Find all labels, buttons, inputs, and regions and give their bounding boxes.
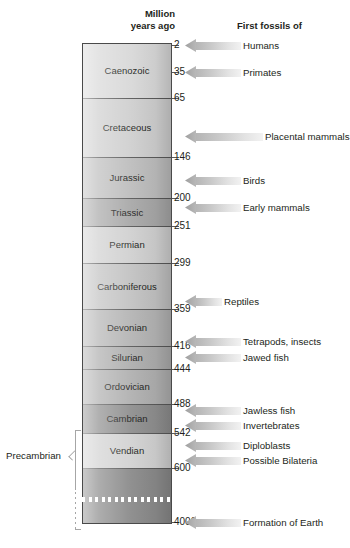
arrow-shaft xyxy=(195,338,241,346)
arrow-head xyxy=(185,516,196,529)
precambrian-bracket-dotted xyxy=(75,492,76,530)
period-band-caenozoic: Caenozoic xyxy=(83,43,171,98)
period-label: Cretaceous xyxy=(103,122,152,133)
tick-label: 65 xyxy=(174,92,185,103)
arrow-shaft xyxy=(195,204,241,212)
period-band-deep-precambrian xyxy=(83,468,171,524)
tick-label: 2 xyxy=(174,39,180,50)
fossil-event-label: Placental mammals xyxy=(265,131,350,142)
period-boundary-rule xyxy=(83,346,171,347)
left-arrow-icon xyxy=(185,454,241,467)
arrow-shaft xyxy=(195,407,241,415)
period-band-cretaceous: Cretaceous xyxy=(83,98,171,157)
left-arrow-icon xyxy=(185,66,241,79)
period-boundary-rule xyxy=(83,309,171,310)
fossil-event: Diploblasts xyxy=(185,438,290,453)
period-band-carboniferous: Carboniferous xyxy=(83,263,171,309)
period-band-cambrian: Cambrian xyxy=(83,404,171,433)
fossil-event: Reptiles xyxy=(185,294,259,309)
period-band-jurassic: Jurassic xyxy=(83,157,171,198)
arrow-head xyxy=(185,419,196,432)
period-band-ordovician: Ordovician xyxy=(83,369,171,404)
precambrian-bracket-tip xyxy=(68,450,78,460)
left-arrow-icon xyxy=(185,335,241,348)
fossil-event: Humans xyxy=(185,38,279,53)
period-label: Permian xyxy=(109,239,144,250)
fossil-event-label: Primates xyxy=(243,67,281,78)
fossils-header: First fossils of xyxy=(237,20,337,32)
period-boundary-rule xyxy=(83,157,171,158)
fossil-event: Possible Bilateria xyxy=(185,453,317,468)
period-label: Vendian xyxy=(110,445,144,456)
arrow-head xyxy=(185,39,196,52)
fossil-event: Placental mammals xyxy=(185,129,350,144)
fossil-event-label: Tetrapods, insects xyxy=(243,336,321,347)
period-band-permian: Permian xyxy=(83,226,171,263)
tick-label: 299 xyxy=(174,257,191,268)
period-label: Caenozoic xyxy=(105,65,150,76)
arrow-head xyxy=(185,66,196,79)
fossil-event-label: Jawless fish xyxy=(243,405,295,416)
arrow-head xyxy=(185,174,196,187)
arrow-shaft xyxy=(195,422,241,430)
left-arrow-icon xyxy=(185,130,263,143)
period-label: Devonian xyxy=(107,322,147,333)
fossil-event-label: Jawed fish xyxy=(243,352,289,363)
fossil-event-label: Formation of Earth xyxy=(243,517,323,528)
left-arrow-icon xyxy=(185,295,222,308)
fossil-event: Birds xyxy=(185,173,265,188)
column-top-edge xyxy=(83,43,171,44)
period-label: Jurassic xyxy=(110,172,145,183)
arrow-head xyxy=(185,439,196,452)
arrow-shaft xyxy=(195,133,263,141)
timescale-break-dashes xyxy=(82,497,172,502)
fossil-event-label: Humans xyxy=(243,40,279,51)
period-boundary-rule xyxy=(83,468,171,469)
arrow-shaft xyxy=(195,354,241,362)
precambrian-bracket-arm-top xyxy=(75,430,81,431)
fossil-event: Invertebrates xyxy=(185,418,300,433)
arrow-head xyxy=(185,201,196,214)
left-arrow-icon xyxy=(185,201,241,214)
arrow-head xyxy=(185,335,196,348)
arrow-head xyxy=(185,130,196,143)
arrow-head xyxy=(185,295,196,308)
arrow-shaft xyxy=(195,69,241,77)
period-band-silurian: Silurian xyxy=(83,346,171,369)
fossil-event-label: Diploblasts xyxy=(243,440,290,451)
fossil-event: Jawed fish xyxy=(185,350,289,365)
arrow-head xyxy=(185,351,196,364)
arrow-head xyxy=(185,404,196,417)
fossil-event: Formation of Earth xyxy=(185,515,323,530)
period-boundary-rule xyxy=(83,198,171,199)
period-boundary-rule xyxy=(83,433,171,434)
left-arrow-icon xyxy=(185,439,241,452)
period-label: Ordovician xyxy=(104,381,149,392)
tick-label: 251 xyxy=(174,220,191,231)
precambrian-bracket-solid xyxy=(75,430,76,490)
period-label: Silurian xyxy=(111,352,143,363)
arrow-shaft xyxy=(195,177,241,185)
precambrian-label: Precambrian xyxy=(6,450,61,461)
period-boundary-rule xyxy=(83,404,171,405)
precambrian-bracket-arm-bottom xyxy=(75,529,81,530)
period-label: Carboniferous xyxy=(97,281,157,292)
arrow-shaft xyxy=(195,519,241,527)
fossil-event: Primates xyxy=(185,65,281,80)
period-boundary-rule xyxy=(83,369,171,370)
period-boundary-rule xyxy=(83,226,171,227)
arrow-head xyxy=(185,454,196,467)
fossil-event-label: Invertebrates xyxy=(243,420,300,431)
arrow-shaft xyxy=(195,298,222,306)
scale-header: Million years ago xyxy=(108,8,175,31)
period-label: Cambrian xyxy=(106,413,147,424)
arrow-shaft xyxy=(195,457,241,465)
left-arrow-icon xyxy=(185,174,241,187)
left-arrow-icon xyxy=(185,39,241,52)
left-arrow-icon xyxy=(185,419,241,432)
left-arrow-icon xyxy=(185,404,241,417)
arrow-shaft xyxy=(195,442,241,450)
tick-label: 146 xyxy=(174,151,191,162)
period-label: Triassic xyxy=(111,207,143,218)
